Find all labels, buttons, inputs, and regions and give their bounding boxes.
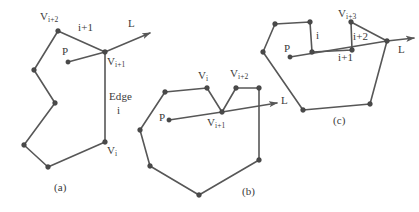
panel-a-label-v-i: Vi: [107, 145, 117, 156]
panel-a-vertex-dot: [103, 50, 108, 55]
panel-a-v-i-plus-2-subscript: i+2: [48, 15, 58, 24]
panel-a-v-i-plus-1-subscript: i+1: [115, 60, 125, 69]
panel-c-caption: (c): [333, 115, 346, 126]
panel-c-v-i-plus-3-text: V: [338, 7, 346, 19]
panel-b-vertex-dot: [220, 110, 225, 115]
panel-b-vertex-dot: [148, 164, 153, 169]
panel-b-v-i-subscript: i: [206, 74, 208, 83]
panel-a-v-i-plus-1-text: V: [107, 55, 115, 67]
panel-b-v-i-plus-2-subscript: i+2: [238, 72, 248, 81]
panel-b-ray: [222, 103, 277, 112]
panel-a-v-i-plus-2-text: V: [40, 10, 48, 22]
panel-a-vertex-dot: [46, 165, 51, 170]
panel-a-vertex-dot: [32, 68, 37, 73]
panel-c-label-edge-i: i: [316, 30, 319, 41]
panel-b-v-i-text: V: [198, 69, 206, 81]
panel-c-vertex-dot: [301, 108, 306, 113]
panel-c-label-edge-i-plus-2: i+2: [353, 31, 368, 42]
panel-b-label-v-i-plus-1: Vi+1: [207, 117, 225, 128]
panel-b-vertex-dot: [257, 86, 262, 91]
panel-a-v-i-subscript: i: [115, 149, 117, 158]
panel-c-ray: [387, 38, 414, 41]
panel-c-label-edge-i-plus-1: i+1: [338, 52, 353, 63]
panel-a-v-i-text: V: [107, 144, 115, 156]
panel-b-vertex-dot: [205, 86, 210, 91]
panel-a-ray: [105, 33, 150, 52]
panel-a-label-v-i-plus-2: Vi+2: [40, 11, 58, 22]
panel-b-label-v-i-plus-2: Vi+2: [230, 68, 248, 79]
figure-container: Vi+2 i+1 L P Vi+1 Edge i Vi (a) Vi Vi+2 …: [0, 0, 419, 212]
panel-b-vertex-dot: [257, 158, 262, 163]
panel-b-vertex-dot: [138, 128, 143, 133]
panel-c-point-p-dot: [288, 55, 292, 59]
panel-a-caption: (a): [54, 182, 67, 193]
panel-c-label-v-i-plus-3: Vi+3: [338, 8, 356, 19]
panel-b-graphics: [138, 86, 277, 198]
panel-a-point-p-dot: [66, 60, 70, 64]
panel-b-v-i-plus-1-text: V: [207, 116, 215, 128]
panel-a-vertex-dot: [56, 29, 61, 34]
panel-c-vertex-dot: [273, 22, 278, 27]
panel-a-vertex-dot: [53, 101, 58, 106]
panel-b-v-i-plus-1-subscript: i+1: [215, 121, 225, 130]
panel-b-label-v-i: Vi: [198, 70, 208, 81]
panel-c-v-i-plus-3-subscript: i+3: [346, 12, 356, 21]
panel-c-label-ray-l: L: [398, 44, 405, 55]
panel-c-label-point-p: P: [284, 43, 290, 54]
panel-b-caption: (b): [242, 186, 255, 197]
panel-c-vertex-dot: [261, 50, 266, 55]
panel-b-v-i-plus-2-text: V: [230, 67, 238, 79]
panel-c-vertex-dot: [310, 50, 315, 55]
panel-c-vertex-dot: [308, 20, 313, 25]
panel-a-p-segment: [68, 52, 105, 62]
panel-a-label-ray-l: L: [128, 18, 135, 29]
panel-a-label-point-p: P: [62, 46, 68, 57]
panel-c-vertex-dot: [368, 102, 373, 107]
panel-b-label-point-p: P: [159, 112, 165, 123]
panel-b-point-p-dot: [167, 118, 171, 122]
panel-b-vertex-dot: [163, 90, 168, 95]
panel-a-label-edge-index: i: [117, 105, 120, 116]
panel-a-label-edge-i-plus-1: i+1: [78, 22, 93, 33]
panel-b-polygon: [140, 88, 259, 195]
panel-b-vertex-dot: [197, 193, 202, 198]
panel-b-label-ray-l: L: [281, 95, 288, 106]
panel-a-label-edge-word: Edge: [109, 91, 132, 102]
panel-a-vertex-dot: [22, 143, 27, 148]
panel-c-vertex-dot: [385, 39, 390, 44]
panel-a-label-v-i-plus-1: Vi+1: [107, 56, 125, 67]
panel-b-vertex-dot: [234, 86, 239, 91]
